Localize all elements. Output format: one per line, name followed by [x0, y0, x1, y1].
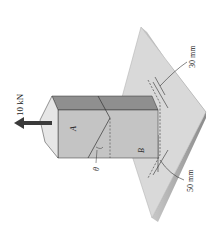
dim-30mm-label: 30 mm: [188, 45, 197, 68]
block-side-face: [52, 96, 158, 110]
angle-label: θ: [92, 167, 101, 171]
point-b-label: B: [137, 148, 146, 153]
load-label: 10 kN: [15, 93, 25, 116]
diagram-canvas: 10 kN A B θ 30 mm 50 mm: [0, 0, 214, 226]
dim-50mm-label: 50 mm: [186, 169, 195, 192]
point-a-label: A: [69, 126, 78, 132]
block-top-face: [40, 96, 58, 158]
arrow-head-icon: [14, 117, 24, 129]
